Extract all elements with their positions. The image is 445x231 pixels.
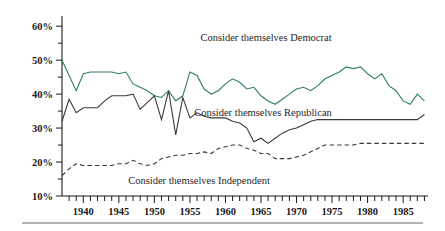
republican-series-label: Consider themselves Republican [194,107,332,118]
x-tick-label: 1945 [108,206,129,217]
x-tick-label: 1955 [179,206,200,217]
x-tick-label: 1970 [286,206,307,217]
y-tick-label: 60% [32,21,53,32]
y-tick-label: 40% [32,89,53,100]
x-tick-label: 1975 [322,206,343,217]
political-affiliation-line-chart: 10%20%30%40%50%60% 194019451950195519601… [0,0,445,231]
x-tick-label: 1950 [144,206,165,217]
y-tick-label: 10% [32,191,53,202]
x-tick-label: 1980 [357,206,378,217]
chart-figure: 10%20%30%40%50%60% 194019451950195519601… [0,0,445,231]
x-tick-label: 1985 [393,206,414,217]
y-tick-label: 20% [32,157,53,168]
x-tick-label: 1960 [215,206,236,217]
democrat-series-label: Consider themselves Democrat [200,32,331,43]
independent-series-label: Consider themselves Independent [128,175,270,186]
x-tick-label: 1940 [73,206,94,217]
x-tick-label: 1965 [250,206,271,217]
y-tick-label: 30% [32,123,53,134]
y-tick-label: 50% [32,55,53,66]
